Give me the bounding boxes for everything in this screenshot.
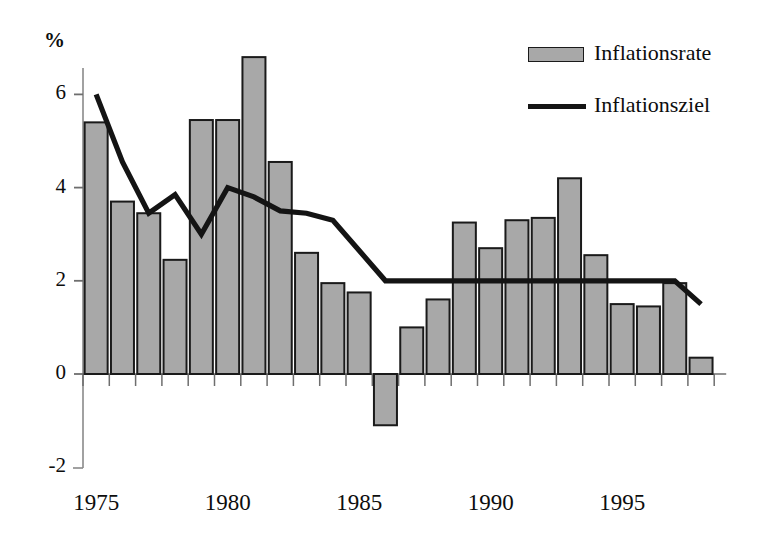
bar-1986	[374, 374, 397, 425]
bar-1996	[637, 306, 660, 374]
bar-1988	[427, 299, 450, 374]
bar-1995	[611, 304, 634, 374]
bar-1980	[216, 120, 239, 374]
bar-1983	[295, 253, 318, 374]
bar-1977	[137, 213, 160, 374]
bar-1975	[85, 122, 108, 374]
bar-1990	[479, 248, 502, 374]
bar-1993	[558, 178, 581, 374]
bar-1984	[321, 283, 344, 374]
bar-1987	[400, 327, 423, 374]
bar-1985	[348, 292, 371, 374]
chart-legend: Inflationsrate Inflationsziel	[528, 40, 760, 136]
bar-1989	[453, 223, 476, 374]
bar-1991	[505, 220, 528, 374]
bar-1992	[532, 218, 555, 374]
chart-figure: % 6420-2 19751980198519901995 Inflations…	[0, 0, 766, 544]
bar-1982	[269, 162, 292, 374]
legend-label-inflationsrate: Inflationsrate	[594, 40, 711, 66]
bar-1979	[190, 120, 213, 374]
bar-1981	[242, 57, 265, 374]
legend-label-inflationsziel: Inflationsziel	[594, 92, 710, 118]
bar-1976	[111, 202, 134, 374]
bar-1997	[663, 283, 686, 374]
bar-swatch-icon	[528, 47, 584, 62]
line-swatch-icon	[528, 104, 586, 109]
bar-1994	[584, 255, 607, 374]
bar-1998	[690, 358, 713, 374]
bar-1978	[164, 260, 187, 374]
